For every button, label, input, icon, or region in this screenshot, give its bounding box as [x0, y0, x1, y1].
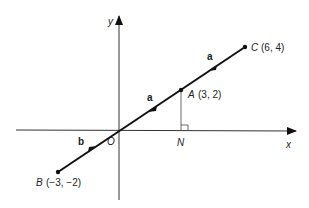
- point-n-name: N: [177, 137, 185, 148]
- point-a-name: A: [187, 89, 195, 100]
- point-c: [243, 45, 247, 49]
- point-c-coords: (6, 4): [261, 42, 284, 53]
- vector-a2-label: a: [207, 51, 213, 62]
- point-b: [56, 170, 60, 174]
- right-angle-mark: [181, 125, 188, 130]
- line-bc: [58, 47, 245, 172]
- vector-b-label: b: [78, 136, 84, 147]
- point-a-coords: (3, 2): [198, 89, 221, 100]
- point-a: [179, 88, 183, 92]
- point-c-name: C: [251, 42, 259, 53]
- vector-diagram: y x O A (3, 2) C (6, 4) B (−3, −2) N a a…: [0, 0, 309, 208]
- x-axis: [16, 130, 296, 131]
- origin-label: O: [107, 136, 115, 147]
- point-b-name: B: [36, 177, 43, 188]
- point-b-coords: (−3, −2): [46, 177, 81, 188]
- y-axis-label: y: [107, 16, 114, 27]
- x-axis-label: x: [285, 139, 292, 150]
- vector-a1-label: a: [147, 92, 153, 103]
